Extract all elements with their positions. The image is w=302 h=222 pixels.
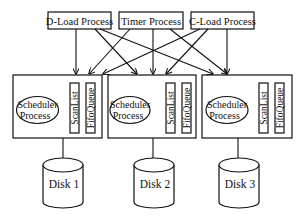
diagram-canvas: D-Load Process Timer Process C-Load Proc… — [0, 0, 302, 222]
arrow-cload-unit2 — [166, 29, 208, 74]
disk-cylinder-top — [219, 158, 259, 172]
scheduler-label-line2: Process — [113, 110, 144, 121]
scheduler-label-line2: Process — [209, 110, 240, 121]
scheduler-unit-3: Scheduler Process ScanList FifoQueue — [202, 75, 292, 138]
arrow-timer-unit3 — [170, 29, 227, 74]
timer-process-label: Timer Process — [121, 16, 181, 27]
scheduler-label-line1: Scheduler — [110, 99, 151, 110]
scheduler-unit-2: Scheduler Process ScanList FifoQueue — [108, 75, 196, 138]
cload-process-box: C-Load Process — [189, 12, 256, 29]
disk-3: Disk 3 — [219, 158, 259, 208]
scanlist-label: ScanList — [259, 91, 269, 125]
disk-cylinder-top — [43, 158, 83, 172]
disk-1: Disk 1 — [43, 158, 83, 208]
dload-process-box: D-Load Process — [46, 12, 113, 29]
scanlist-label: ScanList — [70, 91, 80, 125]
dload-process-label: D-Load Process — [46, 16, 113, 27]
cload-process-label: C-Load Process — [189, 16, 256, 27]
fifoqueue-label: FifoQueue — [86, 88, 96, 129]
disk-cylinder-top — [134, 158, 174, 172]
scanlist-label: ScanList — [166, 91, 176, 125]
process-arrows — [76, 29, 227, 74]
scheduler-label-line1: Scheduler — [207, 99, 248, 110]
fifoqueue-label: FifoQueue — [275, 88, 285, 129]
disk-label: Disk 3 — [225, 178, 256, 190]
scheduler-label-line1: Scheduler — [18, 99, 59, 110]
scheduler-unit-1: Scheduler Process ScanList FifoQueue — [13, 75, 102, 138]
timer-process-box: Timer Process — [119, 12, 183, 29]
disk-2: Disk 2 — [134, 158, 174, 208]
scheduler-label-line2: Process — [20, 110, 51, 121]
fifoqueue-label: FifoQueue — [182, 88, 192, 129]
disk-label: Disk 2 — [140, 178, 171, 190]
disk-label: Disk 1 — [49, 178, 80, 190]
arrow-timer-unit1 — [89, 29, 130, 74]
